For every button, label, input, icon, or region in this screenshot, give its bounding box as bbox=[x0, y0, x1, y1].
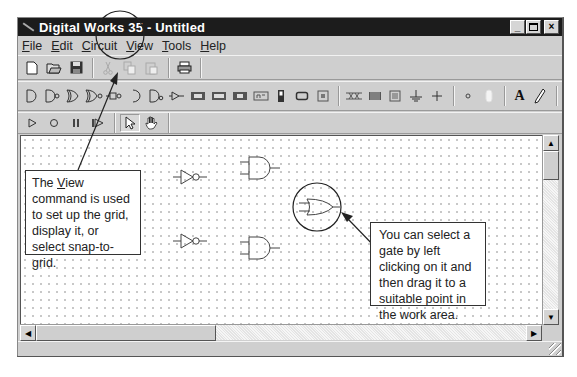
terminal-button[interactable] bbox=[479, 87, 498, 105]
ground-button[interactable] bbox=[407, 87, 426, 105]
save-icon bbox=[70, 61, 83, 74]
cut-button[interactable] bbox=[98, 59, 118, 77]
toolbar-separator bbox=[453, 86, 455, 106]
scroll-up-button[interactable]: ▲ bbox=[543, 135, 559, 151]
nor-gate-icon bbox=[85, 89, 103, 103]
bus-button[interactable] bbox=[344, 87, 363, 105]
sr-flipflop-button[interactable] bbox=[230, 87, 249, 105]
window-controls: _ × bbox=[510, 20, 559, 34]
horizontal-scroll-thumb[interactable] bbox=[36, 325, 216, 341]
memory-button[interactable] bbox=[386, 87, 405, 105]
title-bar[interactable]: Digital Works 35 - Untitled _ × bbox=[18, 18, 562, 36]
pencil-tool-button[interactable] bbox=[531, 87, 550, 105]
stop-button[interactable] bbox=[44, 114, 64, 132]
print-icon bbox=[177, 61, 192, 74]
toolbar-separator bbox=[114, 113, 116, 133]
paste-icon bbox=[145, 61, 159, 75]
horizontal-scrollbar[interactable]: ◀ ▶ bbox=[20, 324, 542, 340]
xor-gate-icon bbox=[106, 89, 124, 103]
toolbar-separator bbox=[504, 86, 506, 106]
scroll-down-button[interactable]: ▼ bbox=[543, 309, 559, 325]
power-button[interactable] bbox=[428, 87, 447, 105]
vertical-scroll-thumb[interactable] bbox=[543, 151, 559, 180]
new-button[interactable] bbox=[22, 59, 42, 77]
maximize-button[interactable] bbox=[526, 20, 541, 34]
select-pointer-button[interactable] bbox=[120, 114, 140, 132]
menu-tools[interactable]: Tools bbox=[162, 39, 191, 53]
or-gate-icon bbox=[66, 89, 80, 103]
print-button[interactable] bbox=[174, 59, 194, 77]
menu-help-rest: elp bbox=[209, 39, 226, 53]
switch-button[interactable] bbox=[272, 87, 291, 105]
d-flipflop-button[interactable] bbox=[189, 87, 208, 105]
pencil-icon bbox=[534, 88, 546, 104]
view-callout: The View command is used to set up the g… bbox=[25, 170, 141, 255]
step-button[interactable] bbox=[88, 114, 108, 132]
menu-file[interactable]: File bbox=[22, 39, 42, 53]
view-callout-prefix: The bbox=[32, 176, 57, 190]
menu-view[interactable]: View bbox=[126, 39, 153, 53]
and-gate-button[interactable] bbox=[22, 87, 41, 105]
gate-callout-text: You can select a gate by left clicking o… bbox=[379, 228, 471, 322]
cut-icon bbox=[103, 61, 113, 75]
and-gate-icon bbox=[25, 89, 37, 103]
ground-icon bbox=[409, 89, 423, 103]
menu-help[interactable]: Help bbox=[200, 39, 226, 53]
status-bar bbox=[18, 341, 562, 356]
stop-icon bbox=[49, 118, 59, 128]
push-button-icon bbox=[295, 91, 309, 101]
toolbar-separator bbox=[168, 113, 170, 133]
play-button[interactable] bbox=[22, 114, 42, 132]
minimize-button[interactable]: _ bbox=[510, 20, 525, 34]
view-callout-keyword-accel: V bbox=[57, 176, 65, 190]
terminal-icon bbox=[485, 89, 493, 103]
push-button-button[interactable] bbox=[293, 87, 312, 105]
save-button[interactable] bbox=[66, 59, 86, 77]
nand-alt-gate-button[interactable] bbox=[147, 87, 166, 105]
play-icon bbox=[27, 118, 37, 128]
nor-gate-button[interactable] bbox=[84, 87, 103, 105]
latch-icon bbox=[253, 91, 269, 101]
menu-file-rest: ile bbox=[30, 39, 43, 53]
seven-segment-button[interactable] bbox=[365, 87, 384, 105]
menu-view-rest: iew bbox=[134, 39, 153, 53]
jk-flipflop-button[interactable] bbox=[209, 87, 228, 105]
menu-file-accel: F bbox=[22, 39, 30, 53]
menu-circuit[interactable]: Circuit bbox=[82, 39, 117, 53]
seven-segment-icon bbox=[368, 91, 382, 101]
buffer-gate-button[interactable] bbox=[126, 87, 145, 105]
gate-callout: You can select a gate by left clicking o… bbox=[370, 222, 486, 306]
or-gate-button[interactable] bbox=[64, 87, 83, 105]
not-gate-button[interactable] bbox=[168, 87, 187, 105]
paste-button[interactable] bbox=[142, 59, 162, 77]
view-callout-keyword-rest: iew bbox=[65, 176, 84, 190]
latch-button[interactable] bbox=[251, 87, 270, 105]
copy-icon bbox=[123, 61, 137, 75]
app-icon[interactable] bbox=[21, 20, 35, 34]
menu-edit-rest: dit bbox=[60, 39, 73, 53]
switch-icon bbox=[277, 89, 285, 103]
nand-gate-button[interactable] bbox=[43, 87, 62, 105]
toolbar-separator bbox=[556, 86, 558, 106]
resize-grip[interactable] bbox=[549, 343, 561, 355]
simulation-toolbar bbox=[18, 112, 562, 134]
menu-tools-rest: ools bbox=[168, 39, 191, 53]
copy-button[interactable] bbox=[120, 59, 140, 77]
hand-tool-button[interactable] bbox=[142, 114, 162, 132]
pause-icon bbox=[71, 118, 81, 128]
pause-button[interactable] bbox=[66, 114, 86, 132]
led-button[interactable] bbox=[314, 87, 333, 105]
vertical-scrollbar[interactable]: ▲ ▼ bbox=[542, 135, 558, 325]
led-icon bbox=[317, 90, 329, 102]
menu-edit[interactable]: Edit bbox=[51, 39, 73, 53]
nand-gate-icon bbox=[44, 89, 60, 103]
scroll-left-button[interactable]: ◀ bbox=[20, 325, 36, 341]
wire-node-button[interactable] bbox=[459, 87, 478, 105]
xor-gate-button[interactable] bbox=[105, 87, 124, 105]
scroll-right-button[interactable]: ▶ bbox=[526, 325, 542, 341]
open-button[interactable] bbox=[44, 59, 64, 77]
close-button[interactable]: × bbox=[544, 20, 559, 34]
step-icon bbox=[91, 118, 105, 128]
wire-node-icon bbox=[464, 92, 472, 100]
text-tool-button[interactable]: A bbox=[510, 87, 529, 105]
